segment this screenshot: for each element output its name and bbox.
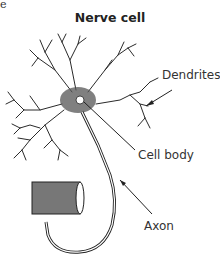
cell-body-pointer — [84, 102, 135, 150]
nucleus — [76, 96, 84, 104]
axon-pointer — [120, 180, 152, 214]
dendrite-upper-right — [88, 42, 136, 92]
muscle-fiber-block — [32, 182, 80, 214]
dendrite-lower-left — [14, 110, 68, 160]
dendrite-left — [6, 92, 62, 118]
label-dendrites: Dendrites — [162, 68, 220, 82]
label-cell-body: Cell body — [138, 148, 194, 162]
nerve-cell-illustration — [0, 0, 220, 267]
dendrite-right — [96, 78, 158, 128]
dendrite-upper-middle — [58, 34, 86, 90]
dendrite-upper-left — [30, 40, 72, 92]
dendrite-lower-left-2 — [12, 124, 40, 134]
label-axon: Axon — [144, 219, 174, 233]
